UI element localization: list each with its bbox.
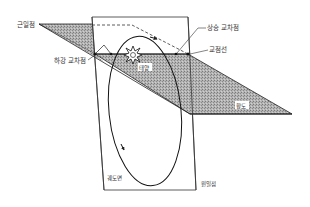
ecliptic-label: 황도	[236, 102, 246, 109]
ascending-node-label: 상승 교차점	[207, 23, 239, 32]
sun-label: 태양	[139, 64, 149, 72]
line-of-nodes-label: 교점선	[209, 45, 227, 54]
line-of-nodes-leader	[190, 50, 208, 54]
aphelion-label: 원일점	[201, 180, 216, 187]
orbital-plane-label: 궤도면	[107, 174, 122, 182]
ascending-orbit-point	[175, 53, 178, 56]
ascending-node-point	[186, 52, 189, 55]
descending-node-label: 하강 교차점	[54, 56, 86, 65]
orbital-elements-diagram: 근일점 상승 교차점 교점선 하강 교차점 태양 황도 궤도면 원일점	[0, 0, 310, 207]
perihelion-label: 근일점	[17, 20, 35, 29]
sun-icon	[124, 46, 142, 64]
